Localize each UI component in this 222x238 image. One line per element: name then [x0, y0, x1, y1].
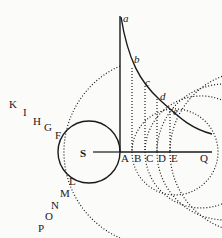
- label-C: C: [146, 152, 153, 164]
- label-b: b: [134, 53, 140, 65]
- label-c: c: [145, 76, 150, 88]
- curve-abcde: [121, 17, 212, 134]
- label-G: G: [44, 121, 52, 133]
- label-I: I: [23, 106, 27, 118]
- label-B: B: [134, 152, 141, 164]
- label-O: O: [45, 210, 53, 222]
- label-e: e: [173, 105, 178, 117]
- label-L: L: [69, 175, 76, 187]
- label-A: A: [121, 152, 129, 164]
- label-H: H: [33, 115, 41, 127]
- label-E: E: [171, 152, 178, 164]
- label-a: a: [123, 12, 129, 24]
- label-F: F: [55, 129, 61, 141]
- label-S: S: [80, 147, 86, 159]
- label-P: P: [38, 222, 44, 234]
- label-Q: Q: [200, 152, 208, 164]
- label-K: K: [9, 98, 17, 110]
- label-D: D: [158, 152, 166, 164]
- label-M: M: [60, 187, 70, 199]
- geometric-figure: S A B C D E Q a b c d e K I H G F L M N …: [0, 0, 222, 238]
- label-d: d: [160, 90, 166, 102]
